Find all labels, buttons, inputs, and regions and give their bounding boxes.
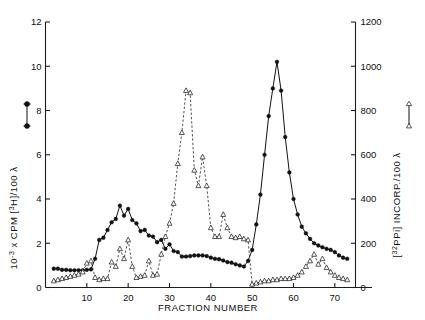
data-point — [200, 154, 205, 159]
right-series-legend-marker — [406, 101, 411, 128]
data-point — [68, 268, 72, 272]
data-point — [85, 268, 89, 272]
data-point — [168, 243, 172, 247]
data-point — [73, 268, 77, 272]
x-tick-label: 60 — [288, 292, 299, 303]
data-point — [230, 261, 234, 265]
data-point — [146, 258, 151, 263]
data-point — [88, 258, 93, 263]
data-point — [176, 250, 180, 254]
data-point — [188, 254, 192, 258]
data-point — [275, 60, 279, 64]
chromatography-plot: 024681012 020040060080010001200 10203040… — [0, 0, 425, 320]
data-point — [229, 234, 234, 239]
data-point — [259, 193, 263, 197]
data-point — [143, 228, 147, 232]
data-point — [242, 265, 246, 269]
data-point — [196, 183, 201, 188]
x-tick-label: 10 — [82, 292, 93, 303]
x-axis-ticks: 10203040506070 — [82, 283, 341, 303]
x-axis-title: FRACTION NUMBER — [158, 302, 258, 313]
data-point — [208, 225, 213, 230]
data-point — [93, 257, 97, 261]
data-point — [135, 221, 139, 225]
data-point — [304, 231, 308, 235]
data-point — [279, 89, 283, 93]
data-point — [117, 246, 122, 251]
data-point — [109, 259, 114, 264]
data-point — [197, 254, 201, 258]
data-point — [333, 250, 337, 254]
data-point — [164, 247, 168, 251]
data-point — [312, 241, 316, 245]
data-point — [126, 207, 130, 211]
right-tick-label: 200 — [361, 238, 377, 249]
data-point — [337, 254, 341, 258]
data-point — [237, 234, 242, 239]
data-point — [155, 272, 160, 277]
figure-container: 024681012 020040060080010001200 10203040… — [0, 0, 425, 320]
data-point — [271, 87, 275, 91]
left-tick-label: 8 — [36, 105, 41, 116]
data-point — [325, 247, 329, 251]
data-point — [321, 245, 325, 249]
series-tritium-markers — [52, 60, 349, 272]
data-point — [201, 254, 205, 258]
data-point — [102, 236, 106, 240]
data-point — [159, 252, 164, 257]
data-point — [64, 268, 68, 272]
data-point — [296, 213, 300, 217]
data-point — [209, 256, 213, 260]
right-tick-label: 600 — [361, 149, 377, 160]
data-point — [192, 254, 196, 258]
data-point — [171, 201, 176, 206]
data-point — [147, 234, 151, 238]
data-point — [288, 171, 292, 175]
data-point — [52, 267, 56, 271]
data-point — [308, 237, 312, 241]
x-tick-label: 50 — [247, 292, 258, 303]
data-point — [167, 221, 172, 226]
data-point — [122, 256, 127, 261]
left-tick-label: 12 — [31, 16, 42, 27]
data-point — [345, 257, 349, 261]
data-point — [60, 268, 64, 272]
data-point — [213, 257, 217, 261]
x-tick-label: 40 — [206, 292, 217, 303]
data-point — [93, 275, 98, 280]
data-point — [122, 214, 126, 218]
data-point — [179, 130, 184, 135]
left-tick-label: 4 — [36, 193, 41, 204]
data-point — [308, 258, 313, 263]
data-point — [142, 273, 147, 278]
data-point — [172, 249, 176, 253]
data-point — [204, 183, 209, 188]
data-point — [118, 204, 122, 208]
data-point — [250, 248, 254, 252]
data-point — [299, 269, 304, 274]
left-tick-label: 2 — [36, 238, 41, 249]
left-series-legend-marker — [24, 102, 31, 129]
data-point — [163, 234, 168, 239]
data-point — [221, 259, 225, 263]
data-point — [225, 225, 230, 230]
data-point — [283, 135, 287, 139]
left-tick-label: 0 — [36, 282, 41, 293]
data-point — [217, 257, 221, 261]
data-point — [126, 237, 131, 242]
data-point — [341, 256, 345, 260]
data-point — [292, 197, 296, 201]
right-axis-title: [32PPi] INCORP./100 λ — [391, 152, 402, 257]
data-point — [56, 267, 60, 271]
data-point — [89, 268, 93, 272]
data-point — [320, 256, 325, 261]
x-tick-label: 30 — [164, 292, 175, 303]
data-point — [238, 264, 242, 268]
data-point — [139, 229, 143, 233]
data-point — [300, 225, 304, 229]
data-point — [205, 254, 209, 258]
left-tick-label: 6 — [36, 149, 41, 160]
data-point — [329, 248, 333, 252]
x-tick-label: 70 — [330, 292, 341, 303]
data-point — [97, 238, 101, 242]
